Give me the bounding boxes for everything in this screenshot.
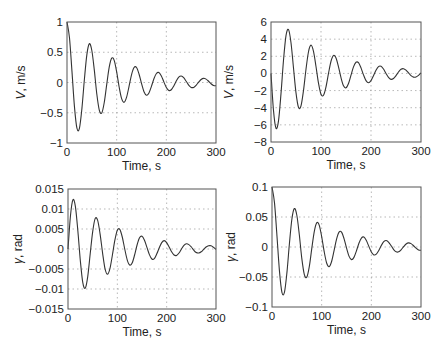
x-tick-label: 200 (362, 310, 381, 322)
x-tick-label: 300 (206, 312, 225, 324)
y-tick-label: 0.05 (246, 211, 268, 223)
y-tick-label: −0.1 (245, 301, 268, 313)
x-axis-label: Time, s (123, 325, 162, 339)
x-tick-label: 300 (206, 146, 225, 158)
y-tick-label: 0.5 (47, 46, 63, 58)
y-tick-label: −0.01 (35, 283, 64, 295)
series-line-V (271, 29, 421, 128)
series-line-gamma (68, 199, 216, 288)
y-tick-label: −4 (254, 102, 268, 114)
x-tick-label: 100 (311, 145, 330, 157)
y-tick-label: 0.015 (35, 183, 64, 195)
x-tick-label: 300 (411, 310, 430, 322)
y-tick-label: −6 (254, 119, 267, 131)
x-tick-label: 100 (312, 310, 331, 322)
x-axis-label: Time, s (327, 158, 366, 172)
series-line-gamma (272, 187, 421, 295)
x-tick-label: 0 (268, 145, 274, 157)
x-tick-label: 100 (107, 146, 126, 158)
y-tick-label: 0 (57, 77, 63, 89)
series-line-V (67, 22, 216, 131)
y-tick-label: 0 (262, 241, 268, 253)
x-tick-label: 200 (361, 145, 380, 157)
y-tick-label: 0.1 (252, 181, 268, 193)
y-tick-label: −0.5 (40, 107, 63, 119)
x-axis-label: Time, s (122, 159, 161, 173)
y-tick-label: −0.005 (29, 263, 65, 275)
subplot-grid: 0100200300−1−0.500.51Time, sV, m/s010020… (0, 0, 445, 353)
y-tick-label: −0.05 (239, 271, 268, 283)
y-tick-label: −0.015 (29, 303, 65, 315)
y-axis-label: γ, rad (11, 234, 25, 264)
x-tick-label: 0 (64, 146, 70, 158)
subplot-bottom-left: 0100200300−0.015−0.01−0.00500.0050.010.0… (11, 183, 226, 339)
y-tick-label: 0 (261, 67, 267, 79)
y-tick-label: 4 (261, 33, 268, 45)
x-tick-label: 100 (108, 312, 127, 324)
x-tick-label: 0 (269, 310, 275, 322)
y-tick-label: 0.01 (42, 203, 64, 215)
plot-frame (271, 22, 421, 142)
y-tick-label: 6 (261, 16, 267, 28)
subplot-bottom-right: 0100200300−0.1−0.0500.050.1Time, sγ, rad (224, 181, 431, 337)
subplot-top-right: 0100200300−8−6−4−20246Time, sV, m/s (222, 16, 431, 172)
y-tick-label: −2 (254, 85, 267, 97)
x-tick-label: 200 (157, 312, 176, 324)
y-axis-label: V, m/s (222, 65, 236, 99)
subplot-top-left: 0100200300−1−0.500.51Time, sV, m/s (14, 16, 226, 173)
y-tick-label: 1 (57, 16, 63, 28)
y-axis-label: V, m/s (14, 65, 28, 99)
x-tick-label: 300 (411, 145, 430, 157)
y-tick-label: 2 (261, 50, 267, 62)
y-axis-label: γ, rad (224, 232, 238, 262)
x-tick-label: 0 (65, 312, 71, 324)
y-tick-label: −8 (254, 136, 267, 148)
y-tick-label: 0 (58, 243, 64, 255)
x-axis-label: Time, s (327, 323, 366, 337)
y-tick-label: 0.005 (35, 223, 64, 235)
y-tick-label: −1 (50, 137, 63, 149)
x-tick-label: 200 (157, 146, 176, 158)
